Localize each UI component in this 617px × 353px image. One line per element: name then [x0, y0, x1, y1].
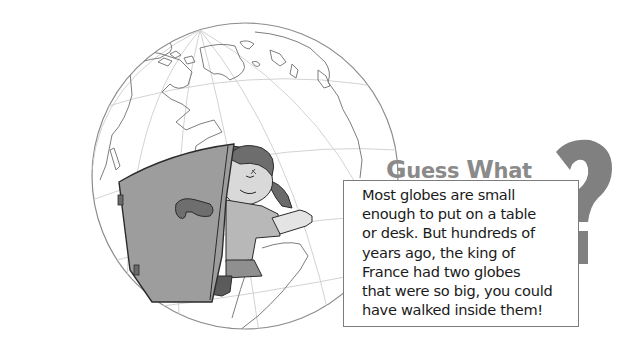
fact-line: enough to put on a table	[362, 204, 592, 223]
fact-line: years ago, the king of	[362, 243, 592, 262]
fact-line: have walked inside them!	[362, 300, 592, 319]
fact-line: France had two globes	[362, 262, 592, 281]
fact-line: or desk. But hundreds of	[362, 223, 592, 242]
fact-line: that were so big, you could	[362, 281, 592, 300]
fact-callout-box: Most globes are small enough to put on a…	[343, 180, 579, 327]
fact-text: Most globes are small enough to put on a…	[362, 185, 592, 319]
fact-line: Most globes are small	[362, 185, 592, 204]
